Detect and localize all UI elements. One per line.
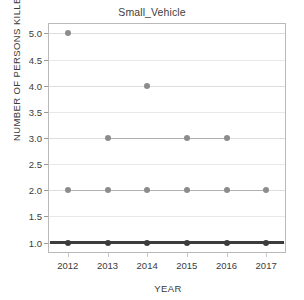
y-tick-mark (44, 243, 48, 244)
gridline (49, 216, 285, 217)
y-tick-label: 1.0 (12, 237, 42, 248)
x-tick-label: 2014 (125, 260, 169, 271)
x-tick-mark (187, 253, 188, 257)
y-tick-mark (44, 216, 48, 217)
data-point-marker[interactable] (65, 240, 71, 246)
x-tick-mark (227, 253, 228, 257)
gridline (49, 60, 285, 61)
chart-title: Small_Vehicle (0, 6, 304, 18)
data-point-marker[interactable] (105, 187, 111, 193)
gridline (49, 164, 285, 165)
x-tick-mark (108, 253, 109, 257)
data-point-marker[interactable] (224, 187, 230, 193)
y-tick-mark (44, 190, 48, 191)
y-tick-label: 1.5 (12, 211, 42, 222)
data-point-marker[interactable] (105, 240, 111, 246)
data-point-marker[interactable] (224, 135, 230, 141)
data-point-marker[interactable] (184, 187, 190, 193)
data-point-marker[interactable] (144, 83, 150, 89)
series-connector-line (50, 241, 284, 244)
data-point-marker[interactable] (65, 30, 71, 36)
gridline (49, 86, 285, 87)
y-tick-mark (44, 112, 48, 113)
x-tick-mark (68, 253, 69, 257)
x-tick-mark (147, 253, 148, 257)
y-tick-label: 2.0 (12, 185, 42, 196)
y-tick-mark (44, 33, 48, 34)
data-point-marker[interactable] (224, 240, 230, 246)
series-connector-line (68, 190, 266, 191)
y-tick-label: 5.0 (12, 28, 42, 39)
y-tick-label: 2.5 (12, 159, 42, 170)
y-tick-mark (44, 164, 48, 165)
y-tick-label: 3.0 (12, 133, 42, 144)
series-connector-line (108, 138, 227, 139)
x-tick-label: 2017 (244, 260, 288, 271)
x-tick-label: 2012 (46, 260, 90, 271)
x-tick-mark (266, 253, 267, 257)
y-tick-label: 4.0 (12, 80, 42, 91)
x-tick-label: 2016 (205, 260, 249, 271)
data-point-marker[interactable] (263, 240, 269, 246)
data-point-marker[interactable] (263, 187, 269, 193)
x-tick-label: 2015 (165, 260, 209, 271)
x-tick-label: 2013 (86, 260, 130, 271)
data-point-marker[interactable] (144, 187, 150, 193)
gridline (49, 33, 285, 34)
y-tick-label: 4.5 (12, 54, 42, 65)
data-point-marker[interactable] (144, 240, 150, 246)
x-axis-title: YEAR (48, 283, 288, 294)
y-tick-mark (44, 86, 48, 87)
y-tick-label: 3.5 (12, 106, 42, 117)
data-point-marker[interactable] (65, 187, 71, 193)
data-point-marker[interactable] (184, 135, 190, 141)
data-point-marker[interactable] (105, 135, 111, 141)
gridline (49, 112, 285, 113)
y-tick-mark (44, 138, 48, 139)
y-tick-mark (44, 60, 48, 61)
data-point-marker[interactable] (184, 240, 190, 246)
chart-container: Small_Vehicle NUMBER OF PERSONS KILLED Y… (0, 0, 304, 300)
